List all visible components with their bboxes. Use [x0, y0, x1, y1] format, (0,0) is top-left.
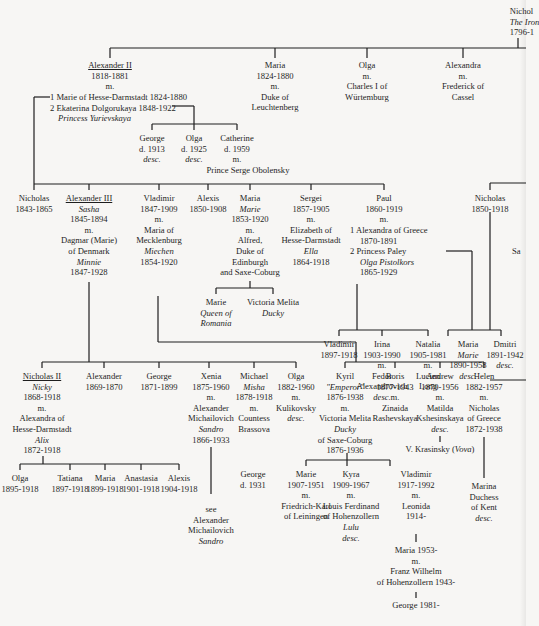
person-alexander-ii: Alexander II 1818-1881 m. [88, 60, 132, 92]
person-boris: Boris 1877-1943 m. Zinaida Rashevskaya [373, 371, 418, 424]
person-alexis-1904: Alexis 1904-1918 [160, 473, 197, 494]
person-vladimir-1847: Vladimir 1847-1909 m. Maria of Mecklenbu… [136, 193, 182, 267]
person-paul-1860: Paul 1860-1919 m. [365, 193, 402, 225]
person-nicholas-1850: Nicholas 1850-1918 [471, 193, 508, 214]
person-olga-wurtemburg: Olga m. Charles I of Würtemburg [345, 60, 389, 102]
person-george-yurievsky: George d. 1913 desc. [139, 133, 165, 165]
person-alexander-iii: Alexander III Sasha 1845-1894 m. Dagmar … [61, 193, 117, 278]
person-nicholas-ii: Nicholas II Nicky 1868-1918 m. Alexandra… [12, 371, 71, 456]
person-marina-kent: Marina Duchess of Kent desc. [469, 481, 498, 523]
person-v-krasinsky: V. Krasinsky (Vova) [406, 444, 475, 455]
person-vladimir-paley: Vladimir 1897-1918 [320, 339, 357, 360]
alexander-ii-spouses: 1 Marie of Hesse-Darmstadt 1824-1880 2 E… [50, 92, 187, 124]
person-kyra: Kyra 1909-1967 m. Louis Ferdinand of Hoh… [323, 469, 380, 543]
person-tatiana: Tatiana 1897-1918 [51, 473, 88, 494]
page-edge-shadow [520, 0, 526, 626]
person-olga-yurievsky: Olga d. 1925 desc. [181, 133, 207, 165]
person-maria-1853: Maria Marie 1853-1920 m. Alfred, Duke of… [220, 193, 280, 278]
spouse-alexandra-greece: 1 Alexandra of Greece [350, 225, 428, 236]
person-michael: Michael Misha 1878-1918 m. Countess Bras… [235, 371, 272, 435]
person-alexander-1869: Alexander 1869-1870 [85, 371, 122, 392]
person-alexandra-cassel: Alexandra m. Frederick of Cassel [442, 60, 484, 102]
person-victoria-melita: Victoria Melita Ducky [247, 297, 299, 318]
person-anastasia: Anastasia 1901-1918 [122, 473, 159, 494]
person-sergei-1857: Sergei 1857-1905 m. Elizabeth of Hesse-D… [281, 193, 340, 267]
person-vladimir-1917: Vladimir 1917-1992 m. Leonida 1914- [397, 469, 434, 522]
person-helen: Helen 1882-1957 m. Nicholas of Greece 18… [465, 371, 502, 435]
person-george-1931: George d. 1931 [240, 469, 266, 490]
person-george-1871: George 1871-1899 [140, 371, 177, 392]
spouse-marie-hesse: 1 Marie of Hesse-Darmstadt 1824-1880 [50, 92, 187, 103]
person-kyril: Kyril "Emperor" 1876-1938 m. Victoria Me… [318, 371, 373, 456]
person-andrew: Andrew 1879-1956 m. Matilda Kshesinskaya… [416, 371, 463, 435]
spouse-princess-paley: 2 Princess Paley [350, 246, 428, 257]
person-maria-leuchtenberg: Maria 1824-1880 m. Duke of Leuchtenberg [251, 60, 298, 113]
person-olga-1882: Olga 1882-1960 m. Kulikovsky desc. [276, 371, 316, 424]
person-nicholas-1843: Nicholas 1843-1865 [15, 193, 52, 214]
paul-spouses: 1 Alexandra of Greece 1870-1891 2 Prince… [350, 225, 428, 278]
person-olga-1895: Olga 1895-1918 [1, 473, 38, 494]
person-maria-1899: Maria 1899-1918 [86, 473, 123, 494]
person-marie-romania: Marie Queen of Romania [200, 297, 231, 329]
person-catherine-yurievsky: Catherine d. 1959 m. [220, 133, 253, 165]
see-reference-sandro: see Alexander Michailovich Sandro [188, 504, 234, 546]
spouse-ekaterina-dolgorukaya: 2 Ekaterina Dolgorukaya 1848-1922 [50, 103, 187, 114]
person-maria-1953: Maria 1953- m. Franz Wilhelm of Hohenzol… [377, 545, 455, 587]
person-xenia: Xenia 1875-1960 m. Alexander Michailovic… [188, 371, 234, 445]
person-george-1981: George 1981- [392, 600, 439, 611]
person-dmitri-1891: Dmitri 1891-1942 desc. [486, 339, 523, 371]
spouse-serge-obolensky: Prince Serge Obolensky [207, 165, 290, 176]
